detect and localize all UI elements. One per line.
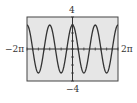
- y-max-label: 4: [69, 5, 75, 15]
- x-min-label: −2π: [5, 44, 24, 54]
- x-max-label: 2π: [121, 44, 133, 54]
- y-min-label: −4: [66, 84, 79, 94]
